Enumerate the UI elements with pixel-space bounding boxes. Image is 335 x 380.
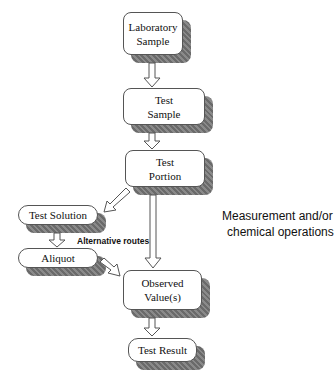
flow-arrows — [0, 0, 335, 380]
arrow-down-icon — [144, 318, 160, 336]
arrow-down-icon — [144, 63, 160, 87]
arrow-down-icon — [144, 133, 160, 149]
measurement-label-line2: chemical operations — [227, 225, 334, 239]
arrow-diagonal-icon — [104, 188, 130, 212]
alternative-routes-label: Alternative routes — [77, 236, 149, 246]
arrow-down-icon — [49, 233, 65, 247]
measurement-label-line1: Measurement and/or — [222, 209, 333, 223]
arrow-down-icon — [145, 195, 161, 268]
arrow-diagonal-icon — [100, 258, 120, 276]
